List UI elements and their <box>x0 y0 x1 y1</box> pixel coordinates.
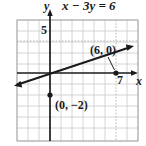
graph-canvas <box>0 0 146 146</box>
equation-label: x − 3y = 6 <box>62 0 116 13</box>
coordinate-graph-figure: . x − 3y = 6 y x 5 7 (6, 0) (0, −2) <box>0 0 146 146</box>
y-axis-label: y <box>44 0 49 13</box>
y-tick-label-5: 5 <box>41 24 47 37</box>
point-marker-0-neg2 <box>47 92 52 97</box>
x-tick-label-7: 7 <box>117 74 123 87</box>
x-axis-label: x <box>136 75 142 88</box>
point-label-0-neg2: (0, −2) <box>55 99 88 112</box>
point-label-6-0: (6, 0) <box>90 44 116 57</box>
